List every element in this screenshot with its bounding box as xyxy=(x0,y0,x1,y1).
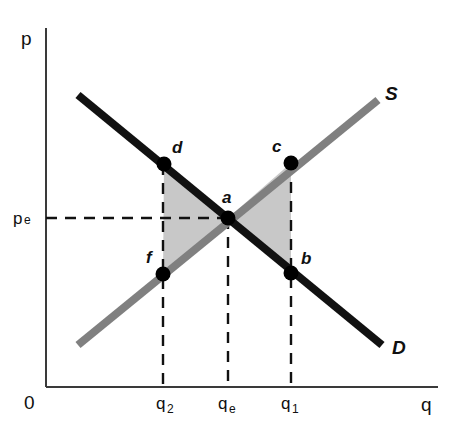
chart-canvas: d c a f b S D p q 0 p e q 2 q e q 1 xyxy=(0,0,459,440)
x-tick-base-q1: q xyxy=(281,394,290,413)
demand-curve-label: D xyxy=(392,337,406,358)
y-tick-base-pe: p xyxy=(13,209,22,228)
y-axis-label: p xyxy=(21,28,32,49)
x-tick-sub-q1: 1 xyxy=(292,402,299,416)
point-marker-b xyxy=(284,266,299,281)
origin-label: 0 xyxy=(24,392,35,413)
point-label-c: c xyxy=(272,137,282,156)
point-label-d: d xyxy=(172,138,183,157)
x-axis-label: q xyxy=(421,394,432,415)
point-marker-f xyxy=(156,267,171,282)
y-tick-sub-pe: e xyxy=(24,213,31,227)
point-marker-d xyxy=(157,157,172,172)
x-tick-base-q2: q xyxy=(156,394,165,413)
point-label-a: a xyxy=(222,188,231,207)
x-tick-sub-qe: e xyxy=(229,402,236,416)
x-tick-base-qe: q xyxy=(218,394,227,413)
x-tick-sub-q2: 2 xyxy=(167,402,174,416)
supply-curve-label: S xyxy=(385,83,398,104)
point-label-b: b xyxy=(301,249,311,268)
point-marker-c xyxy=(284,156,299,171)
point-marker-a xyxy=(221,211,236,226)
supply-demand-figure: d c a f b S D p q 0 p e q 2 q e q 1 xyxy=(0,0,459,440)
